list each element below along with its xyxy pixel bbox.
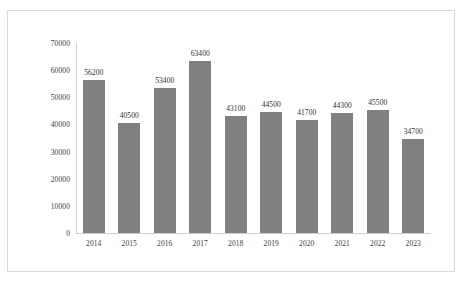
bar-value-label: 41700 [297,108,316,117]
bar-value-label: 34700 [404,127,423,136]
bar[interactable] [260,112,282,233]
bar[interactable] [189,61,211,233]
bar-group: 534002016 [147,43,183,233]
x-axis-tick-label: 2014 [86,239,101,248]
y-axis-tick-label: 10000 [10,201,70,210]
x-axis-tick-label: 2016 [157,239,172,248]
bar-value-label: 53400 [155,76,174,85]
x-axis-tick-label: 2023 [406,239,421,248]
bar-group: 347002023 [396,43,432,233]
bar[interactable] [225,116,247,233]
x-axis-tick-label: 2015 [122,239,137,248]
y-axis-tick-label: 30000 [10,147,70,156]
plot-area: 010000200003000040000500006000070000 562… [76,43,431,233]
y-axis-tick-label: 50000 [10,93,70,102]
x-axis-tick-label: 2017 [193,239,208,248]
bar-group: 431002018 [218,43,254,233]
x-axis-tick-label: 2021 [335,239,350,248]
chart-frame: 010000200003000040000500006000070000 562… [7,10,455,272]
x-axis-tick-label: 2022 [370,239,385,248]
y-axis-tick-label: 20000 [10,174,70,183]
bar[interactable] [367,110,389,234]
bar-group: 634002017 [183,43,219,233]
bar-value-label: 63400 [191,49,210,58]
bar-value-label: 45500 [368,98,387,107]
x-axis-tick-label: 2020 [299,239,314,248]
bar[interactable] [83,80,105,233]
bar-group: 445002019 [254,43,290,233]
bar[interactable] [154,88,176,233]
bar[interactable] [296,120,318,233]
bar[interactable] [402,139,424,233]
bar-value-label: 44300 [333,101,352,110]
y-axis-tick-label: 70000 [10,39,70,48]
bar-group: 405002015 [112,43,148,233]
y-axis-tick-label: 60000 [10,66,70,75]
bar-group: 562002014 [76,43,112,233]
bar-group: 443002021 [325,43,361,233]
x-axis-tick-label: 2019 [264,239,279,248]
y-axis-tick-label: 40000 [10,120,70,129]
bar-group: 417002020 [289,43,325,233]
bar-value-label: 56200 [84,68,103,77]
bar-group: 455002022 [360,43,396,233]
bar[interactable] [331,113,353,233]
x-axis-tick-label: 2018 [228,239,243,248]
x-axis-line [76,233,431,234]
y-axis-tick-label: 0 [10,229,70,238]
bar[interactable] [118,123,140,233]
bar-value-label: 40500 [120,111,139,120]
bar-value-label: 44500 [262,100,281,109]
bar-value-label: 43100 [226,104,245,113]
